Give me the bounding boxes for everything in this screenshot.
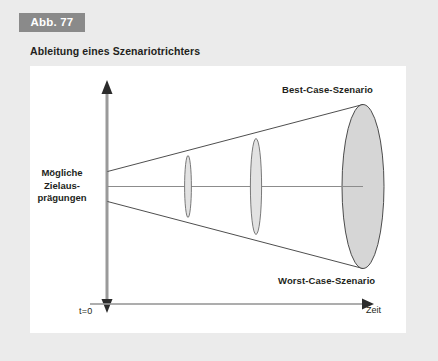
y-axis-label-line-3: prägungen xyxy=(24,192,100,205)
figure-container: Abb. 77 Ableitung eines Szenariotrichter… xyxy=(0,0,438,361)
y-axis xyxy=(102,80,113,313)
diagram-plot-panel: Best-Case-Szenario Worst-Case-Szenario M… xyxy=(30,66,406,333)
x-axis-label: Zeit xyxy=(366,305,381,315)
best-case-boundary xyxy=(108,105,364,172)
cross-section-ellipse-2 xyxy=(250,139,261,235)
y-axis-label: Mögliche Zielaus- prägungen xyxy=(24,167,100,205)
figure-number-label: Abb. 77 xyxy=(31,17,74,29)
y-axis-label-line-2: Zielaus- xyxy=(24,180,100,193)
worst-case-boundary xyxy=(108,202,364,269)
x-axis-origin-label: t=0 xyxy=(79,306,92,316)
cross-section-ellipse-1 xyxy=(185,156,192,218)
figure-number-badge: Abb. 77 xyxy=(19,13,85,32)
figure-title: Ableitung eines Szenariotrichters xyxy=(30,45,200,57)
worst-case-label: Worst-Case-Szenario xyxy=(278,275,375,286)
best-case-label: Best-Case-Szenario xyxy=(282,84,373,95)
y-axis-label-line-1: Mögliche xyxy=(24,167,100,180)
x-axis xyxy=(90,299,374,310)
